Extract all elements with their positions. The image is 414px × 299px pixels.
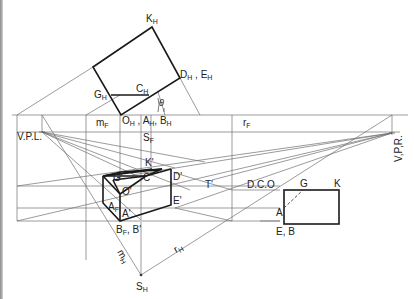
- label-elev-G: G: [300, 179, 308, 189]
- vpr-ray: [212, 133, 392, 180]
- label-O-prime: O': [122, 187, 132, 197]
- station-point: [140, 274, 143, 277]
- label-theta: θ: [159, 99, 164, 108]
- label-T-prime: T': [205, 180, 213, 190]
- projector-line: [180, 78, 200, 115]
- plan-rectangle: [93, 27, 180, 115]
- label-m-F: mF: [96, 118, 109, 129]
- label-r-F: rF: [243, 118, 251, 129]
- projector-line: [17, 67, 93, 115]
- label-dco: D.C.O: [247, 180, 275, 190]
- elevation-rectangle: [284, 190, 339, 224]
- label-G-prime: G': [113, 173, 123, 183]
- label-C-prime: C': [143, 173, 152, 183]
- label-vpr: V,P,R.: [394, 135, 404, 162]
- label-S-F: SF: [143, 133, 154, 144]
- drawing-lines: [0, 0, 414, 299]
- label-A-prime: A': [122, 209, 131, 219]
- label-elev-A: A: [276, 208, 283, 218]
- elevation-diagonal: [284, 190, 303, 208]
- label-A-F: AF: [108, 202, 119, 213]
- label-D-prime: D': [173, 172, 182, 182]
- label-K-prime: K': [145, 158, 154, 168]
- vpl-ray: [42, 132, 205, 162]
- label-K-H: KH: [146, 14, 158, 25]
- label-C-H: CH: [136, 84, 148, 95]
- label-elev-E-B: E, B: [276, 227, 295, 237]
- perspective-drawing: KH DH , EH CH GH θ OH , AH, BH mF rF SF …: [0, 0, 414, 299]
- label-B-F-B-prime: BF, B': [116, 225, 141, 236]
- vpr-ray: [132, 133, 392, 175]
- label-S-H: SH: [136, 282, 148, 293]
- construction-line: [175, 208, 232, 221]
- label-G-H: GH: [94, 90, 107, 101]
- label-O-H-A-H-B-H: OH , AH, BH: [122, 116, 172, 127]
- label-E-prime: E': [173, 196, 182, 206]
- label-D-H-E-H: DH , EH: [180, 70, 212, 81]
- label-elev-K: K: [334, 179, 341, 189]
- label-vpl: V.P.L.: [17, 132, 42, 142]
